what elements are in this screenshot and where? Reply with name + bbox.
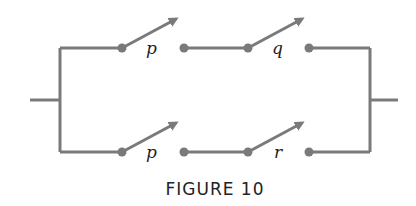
switch-label: r xyxy=(274,142,283,162)
switch-p-bottom: p xyxy=(118,123,189,162)
switch-label: p xyxy=(146,142,157,162)
switch-label: p xyxy=(146,38,157,58)
figure-caption: FIGURE 10 xyxy=(166,179,265,199)
switch-q: q xyxy=(244,19,314,58)
top-branch: p q xyxy=(60,19,370,58)
switch-label: q xyxy=(272,38,283,58)
switching-circuit-diagram: p q p r FIGURE 10 xyxy=(0,0,416,206)
switch-r: r xyxy=(244,123,314,162)
bottom-branch: p r xyxy=(60,123,370,162)
switch-p-top: p xyxy=(118,19,189,58)
